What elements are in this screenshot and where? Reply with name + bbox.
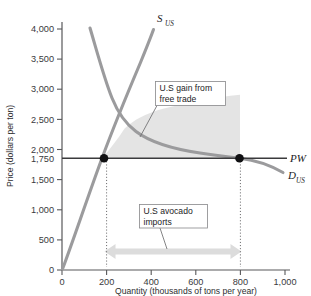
y-tick-label-4000: 4,000 xyxy=(31,24,54,34)
y-tick-label-1750: 1,750 xyxy=(31,154,54,164)
x-axis-title: Quantity (thousands of tons per year) xyxy=(115,286,257,296)
demand-curve-label-main: D xyxy=(287,169,296,181)
x-tick-label-1000: 1,000 xyxy=(274,277,297,287)
gain-callout-line-1: U.S gain from xyxy=(160,83,213,93)
supply-demand-chart: 0 500 1,000 1,500 1,750 2,000 2,500 3,00… xyxy=(0,0,311,296)
imports-span-arrow xyxy=(105,244,242,259)
demand-curve-label: D US xyxy=(287,169,305,185)
imports-callout-line-1: U.S avocado xyxy=(144,206,193,216)
y-tick-label-2000: 2,000 xyxy=(31,145,54,155)
supply-curve-label-sub: US xyxy=(165,20,174,28)
y-tick-label-2500: 2,500 xyxy=(31,115,54,125)
chart-figure: 0 500 1,000 1,500 1,750 2,000 2,500 3,00… xyxy=(0,0,311,296)
gain-callout-line-2: free trade xyxy=(160,94,197,104)
x-tick-label-200: 200 xyxy=(99,277,114,287)
y-tick-label-0: 0 xyxy=(49,265,54,275)
imports-callout-line-2: imports xyxy=(144,217,172,227)
world-price-label: PW xyxy=(289,152,307,164)
y-axis-ticks xyxy=(57,29,62,270)
gain-callout: U.S gain from free trade xyxy=(156,82,226,106)
y-tick-label-1000: 1,000 xyxy=(31,205,54,215)
y-tick-label-3000: 3,000 xyxy=(31,84,54,94)
x-tick-label-0: 0 xyxy=(59,277,64,287)
y-tick-label-1500: 1,500 xyxy=(31,175,54,185)
y-tick-label-500: 500 xyxy=(39,235,54,245)
domestic-supply-point xyxy=(100,154,109,163)
demand-curve-label-sub: US xyxy=(296,177,305,185)
imports-callout-leader xyxy=(160,228,167,249)
y-tick-label-3500: 3,500 xyxy=(31,54,54,64)
domestic-demand-point xyxy=(235,154,244,163)
imports-callout: U.S avocado imports xyxy=(140,205,208,229)
supply-curve-label: S US xyxy=(157,12,174,28)
supply-curve-label-main: S xyxy=(157,12,163,24)
y-axis-title: Price (dollars per ton) xyxy=(5,105,15,187)
x-axis-ticks xyxy=(62,270,285,275)
